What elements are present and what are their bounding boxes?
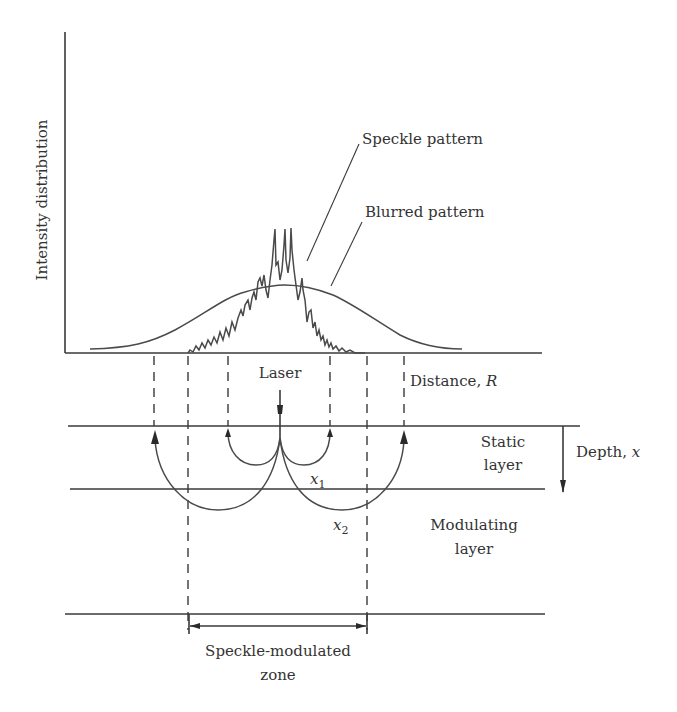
laser-label: Laser <box>259 364 302 382</box>
speckle-diagram: Intensity distribution Speckle pattern B… <box>0 0 677 712</box>
speckle-pattern-curve <box>188 228 365 353</box>
laser-arrow-icon <box>277 405 283 414</box>
x2-label: x2 <box>333 516 348 537</box>
x1-label: x1 <box>310 470 325 491</box>
arrow-up-icon <box>225 428 231 437</box>
blurred-leader-line <box>331 222 362 286</box>
arrow-right-icon <box>356 623 366 629</box>
zone-label-line1: Speckle-modulated <box>205 642 351 660</box>
modulating-layer-label-line1: Modulating <box>430 516 518 534</box>
modulating-layer-label-line2: layer <box>455 540 494 558</box>
arrow-up-icon <box>151 430 159 444</box>
shallow-path-right-arc <box>280 432 330 465</box>
arrow-up-icon <box>327 428 333 437</box>
distance-label: Distance, R <box>410 372 497 390</box>
deep-path-left-arc <box>155 438 280 510</box>
arrow-left-icon <box>190 623 200 629</box>
speckle-pattern-label: Speckle pattern <box>362 130 483 148</box>
static-layer-label-line1: Static <box>481 433 525 451</box>
y-axis-label: Intensity distribution <box>33 119 51 280</box>
depth-arrow-icon <box>560 480 566 493</box>
blurred-pattern-label: Blurred pattern <box>365 203 485 221</box>
shallow-path-left-arc <box>228 432 280 465</box>
deep-path-right-arc <box>280 438 404 510</box>
arrow-up-icon <box>400 430 408 444</box>
zone-label-line2: zone <box>260 666 296 684</box>
depth-label: Depth, x <box>576 443 641 461</box>
blurred-pattern-curve <box>90 285 462 349</box>
static-layer-label-line2: layer <box>484 456 523 474</box>
